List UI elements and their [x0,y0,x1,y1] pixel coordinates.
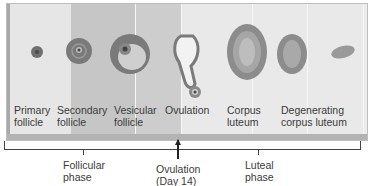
stage-label: Secondary follicle [57,104,107,128]
secondary-follicle-icon [64,36,94,66]
luteal-tick [258,149,259,155]
stage-label: Corpus luteum [227,104,261,128]
panel-bottom-bar [7,134,367,140]
ovarian-cycle-panel: Primary follicle Secondary follicle Vesi… [6,3,368,141]
divider [363,4,364,136]
arrow-head-icon [175,139,181,145]
degenerating-corpus-luteum-icon [275,32,309,76]
phase-label-follicular: Follicular phase [63,159,105,183]
stage-label: Vesicular follicle [114,104,157,128]
phase-label-luteal: Luteal phase [245,159,274,183]
stage-label: Primary follicle [14,104,50,128]
ovulation-icon [171,32,207,104]
stage-label: Ovulation [165,104,209,116]
phase-bracket [4,141,361,150]
corpus-albicans-icon [330,44,356,60]
corpus-luteum-icon [225,22,269,82]
follicular-tick [83,149,84,155]
vesicular-follicle-icon [108,32,152,76]
panel-edge [7,4,10,140]
primary-follicle-icon [30,45,44,59]
phase-label-ovulation: Ovulation (Day 14) [156,163,200,186]
stage-label: Degenerating corpus luteum [281,104,347,128]
